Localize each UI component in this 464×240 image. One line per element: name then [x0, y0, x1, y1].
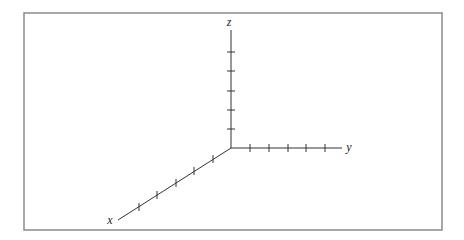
x-axis-label: x	[106, 213, 113, 227]
y-axis-label: y	[345, 140, 352, 154]
diagram-frame	[24, 13, 442, 230]
x-axis-line	[118, 148, 231, 220]
coordinate-axes-diagram: zyx	[0, 0, 464, 240]
z-axis-label: z	[226, 15, 232, 29]
axes-group: zyx	[106, 15, 352, 227]
